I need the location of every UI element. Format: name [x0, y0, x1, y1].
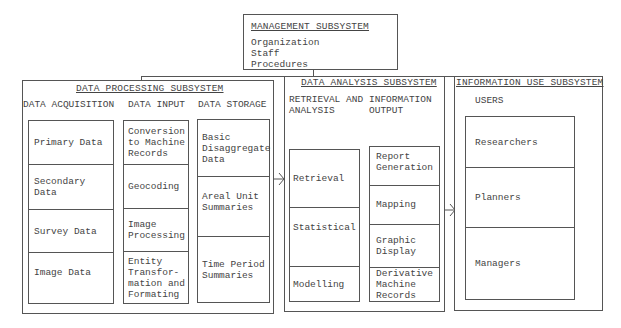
data-analysis-subsystem-box: DATA ANALYSIS SUBSYSTEM RETRIEVAL AND AN…: [284, 76, 445, 312]
list-item: Conversion to Machine Records: [124, 121, 188, 165]
list-item: Derivative Machine Records: [370, 268, 439, 301]
information-use-subsystem-title: INFORMATION USE SUBSYSTEM: [456, 77, 604, 88]
column-header-users: USERS: [475, 95, 504, 106]
management-item: Organization: [251, 37, 319, 48]
data-input-column: Conversion to Machine Records Geocoding …: [123, 120, 189, 304]
list-item: Image Processing: [124, 209, 188, 252]
management-subsystem-title: MANAGEMENT SUBSYSTEM: [251, 21, 369, 32]
retrieval-analysis-column: Retrieval Statistical Modelling: [289, 149, 360, 302]
users-column: Researchers Planners Managers: [465, 116, 575, 300]
information-use-subsystem-box: INFORMATION USE SUBSYSTEM USERS Research…: [454, 76, 603, 311]
list-item: Retrieval: [290, 150, 359, 208]
list-item: Time Period Summaries: [198, 237, 269, 302]
column-header-data-storage: DATA STORAGE: [198, 99, 266, 110]
column-header-information-output: INFORMATION OUTPUT: [369, 94, 432, 116]
list-item: Statistical: [290, 208, 359, 267]
list-item: Researchers: [466, 117, 574, 168]
data-analysis-subsystem-title: DATA ANALYSIS SUBSYSTEM: [301, 77, 437, 88]
management-item: Staff: [251, 48, 319, 59]
list-item: Basic Disaggregate Data: [198, 120, 269, 177]
list-item: Managers: [466, 228, 574, 299]
data-acquisition-column: Primary Data Secondary Data Survey Data …: [28, 120, 114, 304]
column-header-data-acquisition: DATA ACQUISITION: [23, 99, 114, 110]
list-item: Mapping: [370, 186, 439, 225]
list-item: Entity Transfor- mation and Formating: [124, 252, 188, 303]
management-item: Procedures: [251, 59, 319, 70]
list-item: Report Generation: [370, 147, 439, 186]
list-item: Modelling: [290, 267, 359, 301]
list-item: Geocoding: [124, 165, 188, 209]
management-items: Organization Staff Procedures: [251, 37, 319, 70]
column-header-retrieval-analysis: RETRIEVAL AND ANALYSIS: [289, 94, 363, 116]
list-item: Graphic Display: [370, 225, 439, 268]
list-item: Image Data: [29, 253, 113, 303]
data-processing-subsystem-title: DATA PROCESSING SUBSYSTEM: [76, 83, 224, 94]
list-item: Areal Unit Summaries: [198, 177, 269, 237]
information-output-column: Report Generation Mapping Graphic Displa…: [369, 146, 440, 302]
column-header-data-input: DATA INPUT: [128, 99, 185, 110]
management-subsystem-box: MANAGEMENT SUBSYSTEM Organization Staff …: [243, 14, 398, 70]
data-processing-subsystem-box: DATA PROCESSING SUBSYSTEM DATA ACQUISITI…: [22, 80, 274, 314]
list-item: Secondary Data: [29, 165, 113, 210]
data-storage-column: Basic Disaggregate Data Areal Unit Summa…: [197, 119, 270, 303]
list-item: Survey Data: [29, 210, 113, 253]
list-item: Primary Data: [29, 121, 113, 165]
list-item: Planners: [466, 168, 574, 228]
